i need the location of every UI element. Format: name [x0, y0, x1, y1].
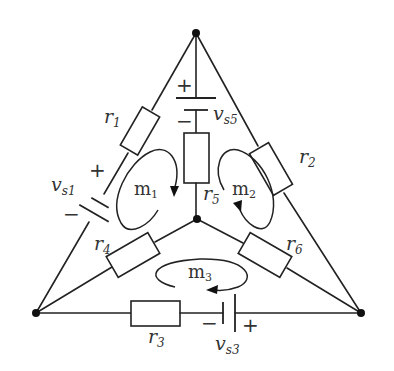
vs1-minus-sign: − [63, 202, 80, 226]
vs1-plus-sign: + [89, 158, 106, 182]
branch-bottom [36, 294, 361, 332]
arrow-icon [170, 186, 179, 197]
wire [104, 153, 128, 194]
label-r6: r6 [286, 232, 303, 257]
label-r2: r2 [299, 145, 316, 170]
wire [197, 219, 243, 243]
label-vs3: vs3 [215, 332, 240, 357]
vs3-plus-sign: + [242, 313, 259, 337]
resistor-r5 [184, 133, 209, 183]
branch-r6 [197, 219, 361, 313]
label-m1: m1 [134, 178, 158, 201]
wire [36, 222, 89, 313]
arrow-icon [233, 200, 242, 212]
label-r1: r1 [104, 105, 121, 130]
label-vs5: vs5 [213, 102, 238, 127]
node-bottom-right [357, 309, 365, 317]
wire [287, 268, 361, 313]
resistor-r3 [131, 301, 180, 326]
resistor-r1 [120, 107, 159, 155]
label-r3: r3 [148, 325, 165, 350]
label-r4: r4 [94, 232, 111, 257]
resistor-r4 [106, 233, 160, 278]
node-bottom-left [32, 309, 40, 317]
arrow-icon [206, 285, 218, 294]
vs5-plus-sign: + [176, 73, 193, 97]
node-center [193, 215, 201, 223]
wire [155, 219, 197, 242]
vs5-minus-sign: − [176, 109, 193, 133]
label-r5: r5 [203, 182, 220, 207]
label-vs1: vs1 [51, 173, 76, 198]
wire [196, 33, 258, 146]
label-m3: m3 [188, 261, 212, 284]
branch-r4 [36, 219, 197, 313]
circuit-diagram: r1 r2 r3 r4 r5 r6 vs1 + − vs5 + − vs3 − … [0, 0, 394, 371]
source-vs3 [223, 294, 235, 332]
label-m2: m2 [232, 178, 256, 201]
wire [36, 267, 112, 313]
resistor-r6 [238, 233, 292, 278]
node-top [192, 29, 200, 37]
vs3-minus-sign: − [201, 311, 218, 335]
source-vs1 [79, 194, 114, 221]
